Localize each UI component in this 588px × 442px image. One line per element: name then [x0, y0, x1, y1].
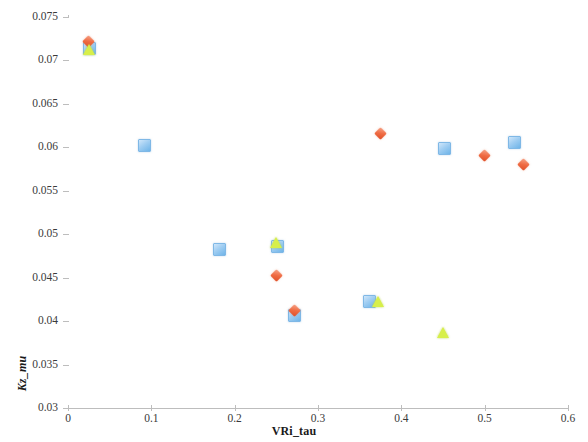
x-axis-tick-label: 0 — [48, 412, 88, 424]
y-axis-tick-label: 0.06 — [0, 141, 58, 153]
y-axis-tick-label: 0.04 — [0, 315, 58, 327]
x-axis-tick-label: 0.2 — [215, 412, 255, 424]
y-axis-tick — [63, 191, 69, 192]
y-axis-tick — [63, 60, 69, 61]
y-axis-tick-label: 0.075 — [0, 11, 58, 23]
data-point — [478, 149, 491, 162]
y-axis-tick-label: 0.065 — [0, 98, 58, 110]
x-axis-tick — [68, 405, 69, 411]
y-axis-tick-label: 0.07 — [0, 54, 58, 66]
x-axis-tick — [568, 405, 569, 411]
x-axis-tick-label: 0.4 — [381, 412, 421, 424]
data-point — [138, 139, 151, 152]
data-point — [508, 136, 521, 149]
x-axis-title: VRi_tau — [0, 424, 588, 439]
y-axis-tick — [63, 104, 69, 105]
y-axis-title-wrap: Kz_mu — [8, 170, 32, 250]
y-axis-tick — [63, 17, 69, 18]
x-axis-tick — [151, 405, 152, 411]
x-axis-tick-label: 0.5 — [465, 412, 505, 424]
data-point — [270, 237, 282, 248]
x-axis-tick-label: 0.6 — [548, 412, 588, 424]
chart-container: channel_Ri_tau=18.0 channel_V=0.025 och_… — [0, 0, 588, 442]
x-axis-tick — [235, 405, 236, 411]
x-axis-tick-label: 0.1 — [131, 412, 171, 424]
x-axis-tick — [318, 405, 319, 411]
y-axis-title: Kz_mu — [15, 344, 30, 404]
data-point — [517, 158, 530, 171]
x-axis-tick — [401, 405, 402, 411]
x-axis-tick-label: 0.3 — [298, 412, 338, 424]
y-axis-tick-label: 0.045 — [0, 272, 58, 284]
data-point — [372, 296, 384, 307]
y-axis-tick — [63, 147, 69, 148]
data-point — [374, 127, 387, 140]
data-point — [438, 142, 451, 155]
data-point — [270, 270, 283, 283]
y-axis-tick — [63, 365, 69, 366]
y-axis-tick — [63, 278, 69, 279]
plot-area — [68, 17, 568, 408]
data-point — [83, 44, 95, 55]
y-axis-tick — [63, 321, 69, 322]
x-axis-tick — [485, 405, 486, 411]
data-point — [213, 243, 226, 256]
y-axis-tick — [63, 234, 69, 235]
data-point — [437, 327, 449, 338]
